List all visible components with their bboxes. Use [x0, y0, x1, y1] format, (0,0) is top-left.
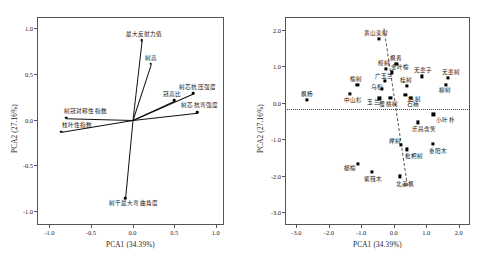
y-axis-title: PCA2 (27.16%) [11, 104, 19, 153]
x-tick-label: 0.0 [390, 229, 398, 236]
score-point-label: 中山杉 [344, 96, 362, 104]
score-point [399, 175, 402, 178]
y-tick-mark [282, 176, 285, 177]
x-tick-label: 2.0 [455, 229, 463, 236]
x-tick-mark [296, 225, 297, 228]
x-tick-label: 0.5 [170, 229, 178, 236]
score-point-label: 榉树 [389, 137, 401, 145]
horizontal-reference-line [285, 109, 470, 110]
score-point-label: 榆树 [350, 75, 362, 83]
loading-vector-endpoint [150, 62, 153, 65]
score-point-label: 广玉兰 [375, 72, 393, 80]
y-tick-mark [282, 139, 285, 140]
y-tick-mark [34, 120, 37, 121]
loading-vector-label: 最大反射力值 [126, 30, 163, 38]
x-tick-mark [91, 225, 92, 228]
score-point [356, 84, 359, 87]
y-tick-mark [282, 212, 285, 213]
score-point-label: 乌桕 [371, 83, 383, 91]
x-axis-title: PCA1 (34.39%) [37, 241, 224, 249]
x-tick-label: -3.0 [291, 229, 301, 236]
x-tick-mark [133, 225, 134, 228]
score-point-label: 无患树 [442, 68, 460, 76]
score-point [405, 148, 408, 151]
loading-vector-endpoint [192, 92, 195, 95]
score-point [305, 99, 308, 102]
x-tick-mark [394, 225, 395, 228]
x-tick-label: 0.0 [129, 229, 137, 236]
loading-vector-label: 枝叶性指数 [62, 121, 93, 129]
loading-vector-label: 树芯抗弯强度 [181, 101, 218, 109]
pca-figure: -1.0-0.50.00.51.01.00.50.0-0.5-1.0PCA1 (… [0, 0, 491, 275]
y-tick-mark [34, 74, 37, 75]
x-tick-mark [49, 225, 50, 228]
y-tick-label: 1.0 [259, 63, 281, 70]
x-tick-label: 1.0 [212, 229, 220, 236]
x-tick-label: -1.0 [44, 229, 54, 236]
x-tick-mark [361, 225, 362, 228]
y-tick-mark [34, 28, 37, 29]
score-point-label: 黄山栾树 [364, 29, 388, 37]
score-point [384, 67, 387, 70]
y-tick-label: -1.0 [11, 208, 33, 215]
loading-vector-endpoint [65, 116, 68, 119]
score-point [377, 37, 380, 40]
score-point [420, 75, 423, 78]
panel-score-plot: -3.0-2.0-1.00.01.02.02.01.00.0-1.0-2.0-3… [246, 0, 491, 275]
score-point [370, 170, 373, 173]
x-tick-mark [426, 225, 427, 228]
loading-vector-endpoint [173, 99, 176, 102]
y-tick-label: -3.0 [259, 209, 281, 216]
score-point-label: 金叶榆 [391, 63, 409, 71]
loading-vector-label: 树冠对称性指数 [64, 107, 107, 115]
score-point-label: 无患子 [414, 66, 432, 74]
score-point-label: 重阳木 [429, 147, 447, 155]
score-point-label: 桂树 [400, 76, 412, 84]
loading-vector-endpoint [140, 39, 143, 42]
score-point-label: 櫻桃树 [379, 100, 397, 108]
y-tick-mark [282, 66, 285, 67]
y-tick-label: 1.0 [11, 24, 33, 31]
x-axis-title: PCA1 (34.39%) [285, 241, 470, 249]
score-point [431, 142, 434, 145]
y-axis-title: PCA2 (27.16%) [257, 104, 265, 153]
score-point-label: 枫杨 [301, 90, 313, 98]
score-point-label: 柳树 [439, 86, 451, 94]
x-tick-label: -0.5 [86, 229, 96, 236]
loading-vector-endpoint [196, 111, 199, 114]
x-tick-mark [174, 225, 175, 228]
y-tick-mark [34, 165, 37, 166]
y-tick-mark [34, 211, 37, 212]
score-point-label: 樟树 [378, 59, 390, 67]
score-point-label: 玉兰 [367, 98, 379, 106]
x-tick-mark [216, 225, 217, 228]
y-tick-label: -2.0 [259, 172, 281, 179]
y-tick-mark [282, 103, 285, 104]
score-point-label: 乐昌含笑 [412, 125, 436, 133]
score-point-label: 枫香 [390, 54, 402, 62]
score-point-label: 北美枫 [396, 180, 414, 188]
y-tick-label: -0.5 [11, 162, 33, 169]
score-point-label: 石楠 [407, 100, 419, 108]
x-tick-label: -2.0 [324, 229, 334, 236]
y-tick-label: 0.5 [11, 70, 33, 77]
loading-vector-label: 树高 [145, 54, 157, 62]
score-point [432, 113, 435, 116]
score-point-label: 小叶朴 [436, 116, 454, 124]
loading-vector-endpoint [60, 130, 63, 133]
score-point [447, 77, 450, 80]
loading-vector-label: 树干最大弯曲角度 [109, 199, 158, 207]
score-point [416, 121, 419, 124]
x-tick-label: 1.0 [422, 229, 430, 236]
score-point [404, 93, 407, 96]
y-tick-mark [282, 30, 285, 31]
loading-vector-label: 冠高比 [163, 90, 181, 98]
x-tick-mark [329, 225, 330, 228]
score-point [405, 84, 408, 87]
x-tick-label: -1.0 [356, 229, 366, 236]
panel-loading-plot: -1.0-0.50.00.51.01.00.50.0-0.5-1.0PCA1 (… [0, 0, 245, 275]
y-tick-label: 2.0 [259, 26, 281, 33]
score-point [356, 162, 359, 165]
loading-vector-label: 树芯抗压强度 [179, 83, 216, 91]
score-point-label: 榔榆 [344, 164, 356, 172]
